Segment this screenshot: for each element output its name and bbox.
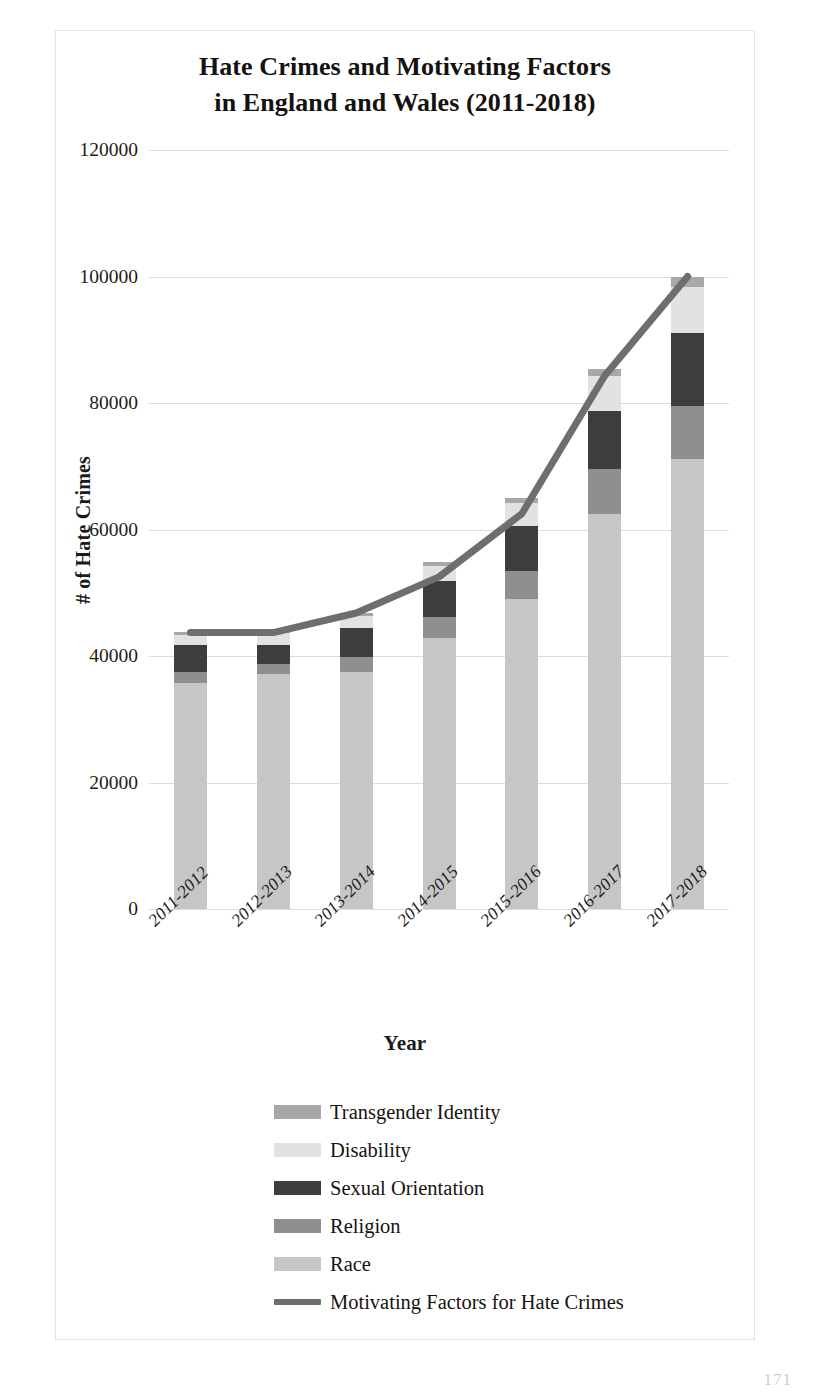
chart-title-line-2: in England and Wales (2011-2018) [56,85,754,121]
y-axis-tick-label: 120000 [80,139,139,161]
x-axis-title: Year [56,1031,754,1056]
legend-item[interactable]: Disability [274,1131,624,1169]
legend-label: Transgender Identity [330,1101,501,1124]
legend-item[interactable]: Race [274,1245,624,1283]
y-axis-tick-label: 80000 [89,392,138,414]
legend-label: Sexual Orientation [330,1177,484,1200]
legend-label: Religion [330,1215,401,1238]
legend-color-swatch [274,1181,321,1195]
legend-label: Race [330,1253,371,1276]
chart-figure: Hate Crimes and Motivating Factors in En… [55,30,755,1340]
y-axis-tick-label: 100000 [80,266,139,288]
chart-title: Hate Crimes and Motivating Factors in En… [56,49,754,121]
legend-color-swatch [274,1257,321,1271]
legend-item[interactable]: Transgender Identity [274,1093,624,1131]
y-axis-tick-label: 60000 [89,519,138,541]
legend-item[interactable]: Motivating Factors for Hate Crimes [274,1283,624,1321]
plot-area: 020000400006000080000100000120000 2011-2… [149,150,729,909]
legend-line-swatch [274,1299,321,1305]
line-series [149,150,729,909]
legend-color-swatch [274,1105,321,1119]
legend-item[interactable]: Sexual Orientation [274,1169,624,1207]
y-axis-tick-label: 0 [128,898,138,920]
chart-title-line-1: Hate Crimes and Motivating Factors [56,49,754,85]
legend-color-swatch [274,1219,321,1233]
y-axis-tick-label: 40000 [89,645,138,667]
legend-label: Motivating Factors for Hate Crimes [330,1291,624,1314]
page-number: 171 [764,1370,793,1390]
motivating-factors-line [190,277,687,633]
legend-item[interactable]: Religion [274,1207,624,1245]
legend-color-swatch [274,1143,321,1157]
legend-label: Disability [330,1139,411,1162]
y-axis-tick-label: 20000 [89,772,138,794]
chart-legend: Transgender IdentityDisabilitySexual Ori… [274,1093,624,1321]
